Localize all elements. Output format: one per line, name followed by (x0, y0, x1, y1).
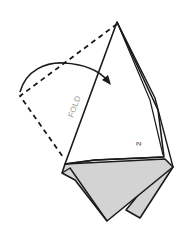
white-flap-shape (65, 22, 164, 164)
white-flap (65, 22, 173, 167)
step-number-label: 2 (134, 141, 143, 146)
fold-label: FOLD (66, 94, 82, 118)
origami-diagram: FOLD 2 (0, 0, 185, 234)
gray-base (62, 159, 173, 221)
